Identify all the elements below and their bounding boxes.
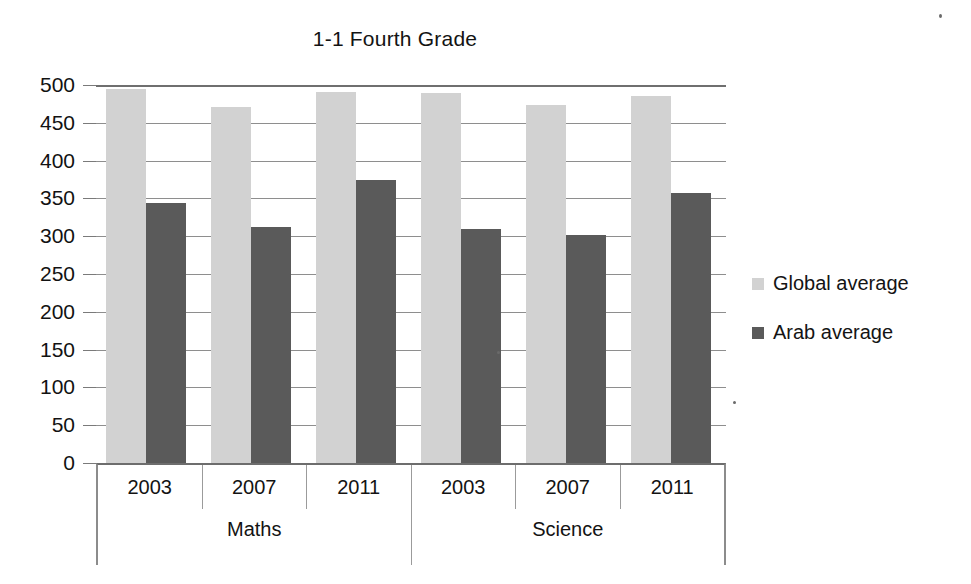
group-row: MathsScience xyxy=(98,509,724,565)
bar-arab-average-0 xyxy=(146,203,186,463)
y-axis-label: 200 xyxy=(15,300,75,324)
scan-speck xyxy=(733,401,736,404)
scan-speck xyxy=(939,14,942,18)
y-axis-label: 250 xyxy=(15,262,75,286)
y-axis-label: 150 xyxy=(15,338,75,362)
bar-chart: 1-1 Fourth Grade 50045040035030025020015… xyxy=(0,0,971,584)
bar-arab-average-3 xyxy=(461,229,501,463)
bar-global-average-3 xyxy=(421,93,461,463)
legend-item-0[interactable]: Global average xyxy=(752,272,967,295)
y-tick-100 xyxy=(83,387,96,388)
bar-arab-average-2 xyxy=(356,180,396,463)
bar-arab-average-4 xyxy=(566,235,606,463)
y-axis-label: 0 xyxy=(15,451,75,475)
chart-title: 1-1 Fourth Grade xyxy=(0,27,790,51)
year-cell-1: 2007 xyxy=(203,465,308,509)
legend-swatch-icon xyxy=(752,278,764,290)
category-axis-table: 200320072011200320072011 MathsScience xyxy=(96,463,726,565)
y-tick-400 xyxy=(83,161,96,162)
y-tick-50 xyxy=(83,425,96,426)
year-cell-4: 2007 xyxy=(516,465,621,509)
scan-speck xyxy=(497,351,500,354)
legend-item-1[interactable]: Arab average xyxy=(752,321,967,344)
group-label-maths: Maths xyxy=(98,509,412,565)
bar-global-average-4 xyxy=(526,105,566,463)
chart-legend: Global averageArab average xyxy=(752,272,967,370)
bar-global-average-0 xyxy=(106,89,146,463)
y-tick-250 xyxy=(83,274,96,275)
group-label-science: Science xyxy=(412,509,725,565)
legend-swatch-icon xyxy=(752,327,764,339)
bars-layer xyxy=(96,85,726,463)
y-tick-200 xyxy=(83,312,96,313)
y-axis-label: 100 xyxy=(15,375,75,399)
y-axis-label: 350 xyxy=(15,186,75,210)
year-row: 200320072011200320072011 xyxy=(98,465,724,509)
bar-arab-average-1 xyxy=(251,227,291,463)
bar-arab-average-5 xyxy=(671,193,711,463)
plot-area: 500450400350300250200150100500 xyxy=(96,85,726,463)
bar-global-average-5 xyxy=(631,96,671,463)
year-cell-2: 2011 xyxy=(307,465,412,509)
bar-global-average-1 xyxy=(211,107,251,463)
y-tick-300 xyxy=(83,236,96,237)
y-tick-150 xyxy=(83,350,96,351)
y-tick-350 xyxy=(83,198,96,199)
y-axis-label: 50 xyxy=(15,413,75,437)
legend-label: Global average xyxy=(773,272,909,295)
y-tick-450 xyxy=(83,123,96,124)
bar-global-average-2 xyxy=(316,92,356,463)
y-axis-label: 300 xyxy=(15,224,75,248)
y-axis-label: 400 xyxy=(15,149,75,173)
y-axis-label: 450 xyxy=(15,111,75,135)
year-cell-5: 2011 xyxy=(621,465,725,509)
year-cell-3: 2003 xyxy=(412,465,517,509)
year-cell-0: 2003 xyxy=(98,465,203,509)
y-tick-0 xyxy=(83,463,96,464)
legend-label: Arab average xyxy=(773,321,893,344)
y-axis-label: 500 xyxy=(15,73,75,97)
y-tick-500 xyxy=(83,85,96,86)
